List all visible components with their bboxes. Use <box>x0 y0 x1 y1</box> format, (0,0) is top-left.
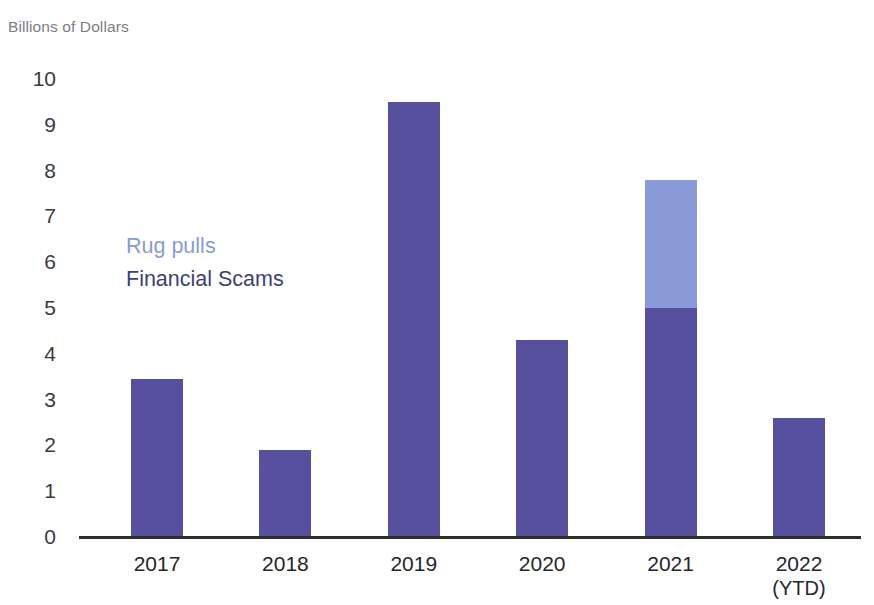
x-axis-tick-label: 2022(YTD) <box>739 552 859 600</box>
bar-group <box>516 340 568 537</box>
y-axis-tick-label: 9 <box>10 113 56 134</box>
y-axis-tick-label: 7 <box>10 205 56 226</box>
y-axis-tick-label: 6 <box>10 251 56 272</box>
bar-segment-financial-scams <box>516 340 568 537</box>
x-axis: 201720182019202020212022(YTD) <box>79 552 861 605</box>
bar-group <box>259 450 311 537</box>
x-axis-tick-year: 2022 <box>776 552 823 575</box>
x-axis-tick-label: 2019 <box>354 552 474 577</box>
y-axis: 109876543210 <box>0 0 56 605</box>
x-axis-tick-sublabel: (YTD) <box>739 577 859 601</box>
bar-segment-rug-pulls <box>645 180 697 308</box>
x-axis-tick-year: 2018 <box>262 552 309 575</box>
bar-segment-financial-scams <box>259 450 311 537</box>
x-axis-tick-year: 2021 <box>647 552 694 575</box>
plot-area <box>79 60 861 537</box>
y-axis-tick-label: 0 <box>10 526 56 547</box>
bar-segment-financial-scams <box>388 102 440 537</box>
x-axis-tick-year: 2020 <box>519 552 566 575</box>
x-axis-tick-year: 2017 <box>134 552 181 575</box>
y-axis-tick-label: 4 <box>10 342 56 363</box>
x-axis-tick-year: 2019 <box>390 552 437 575</box>
y-axis-tick-label: 3 <box>10 388 56 409</box>
y-axis-tick-label: 2 <box>10 434 56 455</box>
chart-legend: Rug pullsFinancial Scams <box>126 236 284 290</box>
x-axis-tick-label: 2020 <box>482 552 602 577</box>
bar-segment-financial-scams <box>773 418 825 537</box>
x-axis-tick-label: 2021 <box>611 552 731 577</box>
x-axis-tick-label: 2018 <box>225 552 345 577</box>
x-axis-line <box>79 536 861 539</box>
bar-group <box>131 379 183 537</box>
y-axis-tick-label: 1 <box>10 480 56 501</box>
bar-group <box>773 418 825 537</box>
legend-entry: Financial Scams <box>126 269 284 291</box>
bar-segment-financial-scams <box>645 308 697 537</box>
legend-entry: Rug pulls <box>126 236 284 258</box>
bar-group <box>388 102 440 537</box>
bar-segment-financial-scams <box>131 379 183 537</box>
y-axis-tick-label: 10 <box>10 68 56 89</box>
y-axis-tick-label: 5 <box>10 297 56 318</box>
bar-group <box>645 180 697 537</box>
y-axis-tick-label: 8 <box>10 159 56 180</box>
x-axis-tick-label: 2017 <box>97 552 217 577</box>
bar-chart: Billions of Dollars 109876543210 Rug pul… <box>0 0 874 605</box>
